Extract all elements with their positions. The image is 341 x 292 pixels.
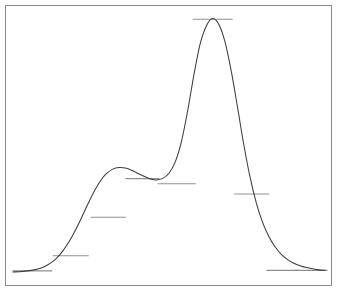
plot-canvas [0, 0, 341, 292]
data-curve [13, 18, 325, 271]
marker-layer [12, 19, 327, 271]
figure-root [0, 0, 341, 292]
